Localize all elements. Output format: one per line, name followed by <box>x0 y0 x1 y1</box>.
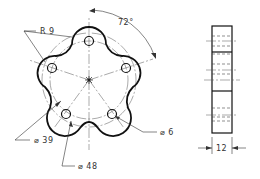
hole-diameter-label: ⌀ 6 <box>160 128 174 137</box>
side-view: 12 <box>198 26 246 154</box>
hole-lower-left <box>62 110 71 119</box>
angle-label: 72° <box>118 18 134 27</box>
hole-diameter-leader: ⌀ 6 <box>115 116 174 137</box>
center-mark-icon <box>85 76 93 84</box>
angle-dimension: 72° <box>89 8 156 59</box>
outer-circle-diameter-label: ⌀ 48 <box>78 162 98 171</box>
hidden-lines <box>212 36 232 121</box>
hole-lower-right <box>108 110 117 119</box>
bolt-circle-diameter-label: ⌀ 39 <box>34 136 54 145</box>
radius-label: R 9 <box>40 27 55 36</box>
thickness-dimension: 12 <box>198 137 246 154</box>
front-view: 72° R 9 ⌀ 6 ⌀ 39 ⌀ 48 <box>15 8 174 171</box>
thickness-label: 12 <box>216 144 227 153</box>
bolt-circle-leader: ⌀ 39 <box>15 101 61 145</box>
radial-centerlines <box>29 16 153 150</box>
technical-drawing: 72° R 9 ⌀ 6 ⌀ 39 ⌀ 48 <box>0 0 260 179</box>
